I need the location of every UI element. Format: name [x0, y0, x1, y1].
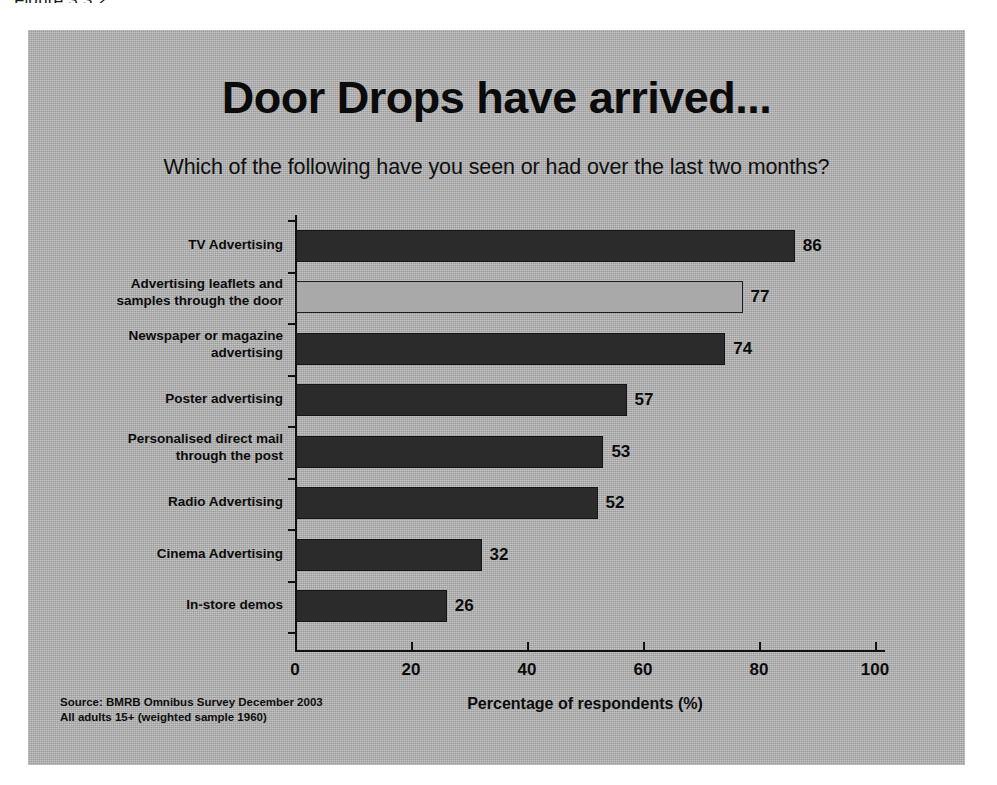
y-axis-tick	[288, 478, 295, 480]
y-axis-tick	[288, 426, 295, 428]
category-label: In-store demos	[53, 596, 283, 613]
bar	[296, 384, 627, 416]
source-line-1: Source: BMRB Omnibus Survey December 200…	[60, 695, 323, 710]
y-axis-tick	[288, 529, 295, 531]
bar-value-label: 57	[635, 384, 654, 416]
x-axis-tick-label: 80	[729, 660, 789, 680]
bar-value-label: 53	[611, 436, 630, 468]
category-label: TV Advertising	[53, 236, 283, 253]
category-label-line: Advertising leaflets and	[53, 275, 283, 292]
bar	[296, 281, 743, 313]
category-label: Radio Advertising	[53, 493, 283, 510]
x-axis-tick	[759, 642, 761, 650]
source-line-2: All adults 15+ (weighted sample 1960)	[60, 710, 323, 725]
x-axis-tick	[875, 642, 877, 650]
y-axis-tick	[288, 323, 295, 325]
x-axis-tick-label: 100	[845, 660, 905, 680]
y-axis-tick	[288, 220, 295, 222]
category-label-line: Newspaper or magazine	[53, 327, 283, 344]
bar	[296, 436, 603, 468]
x-axis-line	[295, 650, 885, 652]
x-axis-tick	[411, 642, 413, 650]
category-label-line: advertising	[53, 344, 283, 361]
category-label-line: In-store demos	[53, 596, 283, 613]
bar-chart: Percentage of respondents (%) TV Adverti…	[28, 30, 965, 765]
figure-caption: Figure 3.3.2	[14, 0, 107, 3]
bar-value-label: 52	[606, 487, 625, 519]
y-axis-tick	[288, 581, 295, 583]
bar-value-label: 77	[751, 281, 770, 313]
x-axis-title: Percentage of respondents (%)	[235, 695, 935, 713]
bar-value-label: 74	[733, 333, 752, 365]
category-label-line: TV Advertising	[53, 236, 283, 253]
bar	[296, 487, 598, 519]
x-axis-tick	[295, 642, 297, 650]
x-axis-tick-label: 0	[265, 660, 325, 680]
x-axis-tick-label: 20	[381, 660, 441, 680]
category-label: Cinema Advertising	[53, 545, 283, 562]
category-label-line: Radio Advertising	[53, 493, 283, 510]
bar-value-label: 26	[455, 590, 474, 622]
presentation-slide: Door Drops have arrived... Which of the …	[28, 30, 965, 765]
category-label-line: through the post	[53, 447, 283, 464]
category-label: Newspaper or magazineadvertising	[53, 327, 283, 361]
bar-value-label: 32	[490, 539, 509, 571]
x-axis-tick	[643, 642, 645, 650]
bar	[296, 590, 447, 622]
category-label-line: Personalised direct mail	[53, 430, 283, 447]
bar	[296, 539, 482, 571]
x-axis-tick-label: 60	[613, 660, 673, 680]
bar	[296, 333, 725, 365]
source-note: Source: BMRB Omnibus Survey December 200…	[60, 695, 323, 725]
y-axis-tick	[288, 272, 295, 274]
y-axis-tick	[288, 632, 295, 634]
category-label: Poster advertising	[53, 390, 283, 407]
y-axis-tick	[288, 375, 295, 377]
x-axis-tick	[527, 642, 529, 650]
x-axis-tick-label: 40	[497, 660, 557, 680]
bar	[296, 230, 795, 262]
category-label: Advertising leaflets andsamples through …	[53, 275, 283, 309]
category-label: Personalised direct mailthrough the post	[53, 430, 283, 464]
category-label-line: samples through the door	[53, 292, 283, 309]
category-label-line: Poster advertising	[53, 390, 283, 407]
bar-value-label: 86	[803, 230, 822, 262]
category-label-line: Cinema Advertising	[53, 545, 283, 562]
